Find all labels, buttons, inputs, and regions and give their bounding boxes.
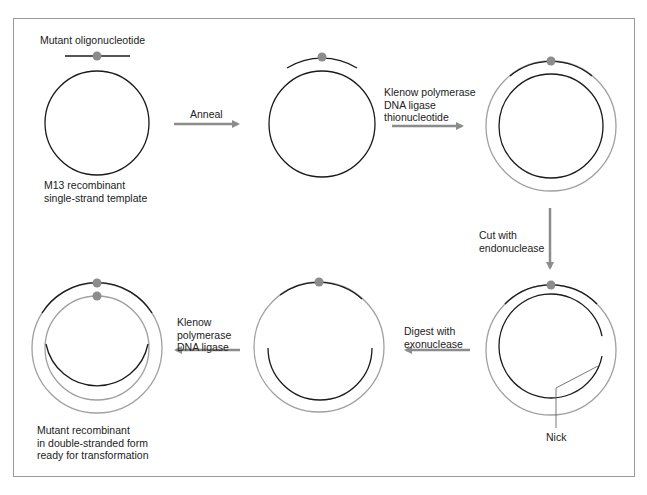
stage-2-annealed	[269, 53, 375, 178]
template-circle	[269, 71, 375, 177]
new-strand-circle	[486, 285, 616, 415]
mutation-dot-icon	[547, 281, 556, 290]
new-strand-circle	[254, 282, 384, 412]
label-digest: Digest with exonuclease	[404, 325, 463, 350]
remaining-template-arc	[268, 348, 372, 400]
label-oligo: Mutant oligonucleotide	[40, 34, 145, 47]
template-circle	[45, 71, 149, 175]
mutation-dot-icon	[93, 292, 102, 301]
mutation-dot-icon	[93, 52, 102, 61]
stage-6-mutant	[32, 279, 162, 414]
mutation-dot-icon	[547, 57, 556, 66]
outer-strand-circle	[32, 283, 162, 413]
label-nick: Nick	[546, 431, 566, 444]
stage-5-digested	[254, 278, 384, 413]
label-final: Mutant recombinant in double-stranded fo…	[37, 424, 148, 462]
stage-4-nicked	[486, 281, 616, 429]
label-extend: Klenow polymerase DNA ligase thionucleot…	[384, 86, 476, 124]
inner-black-arc	[46, 344, 148, 386]
nicked-template-arc	[499, 294, 602, 398]
label-repair: Klenow polymerase DNA ligase	[177, 316, 231, 354]
new-strand-circle	[486, 61, 616, 191]
mutation-dot-icon	[315, 278, 324, 287]
template-circle	[499, 74, 603, 178]
stage-1-template	[45, 52, 149, 176]
mutation-dot-icon	[93, 279, 102, 288]
label-cut: Cut with endonuclease	[479, 229, 544, 254]
inner-strand-circle	[45, 296, 149, 400]
stage-3-double-strand	[486, 57, 616, 192]
mutation-dot-icon	[318, 53, 327, 62]
label-template: M13 recombinant single-strand template	[44, 179, 147, 204]
label-anneal: Anneal	[190, 108, 223, 121]
